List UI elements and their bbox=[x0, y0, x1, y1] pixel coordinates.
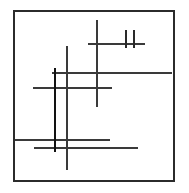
figure-canvas bbox=[0, 0, 189, 193]
line-composition-figure bbox=[0, 0, 189, 193]
canvas-background bbox=[0, 0, 189, 193]
